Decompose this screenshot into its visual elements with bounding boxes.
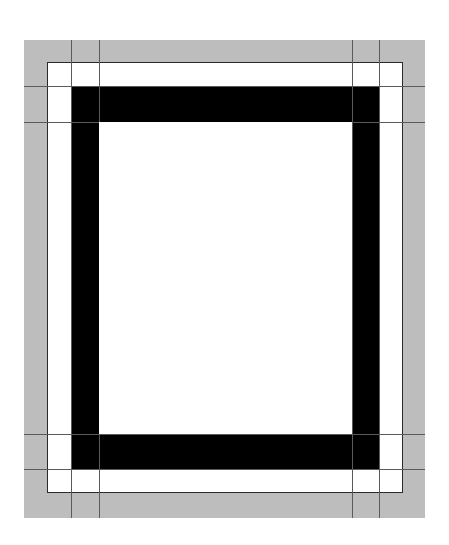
grid-line-horizontal-4: [24, 469, 425, 470]
ring-left-bar: [71, 86, 99, 470]
grid-line-vertical-4: [379, 40, 380, 518]
grid-line-vertical-1: [71, 40, 72, 518]
grid-line-horizontal-1: [24, 86, 425, 87]
grid-line-vertical-3: [352, 40, 353, 518]
ring-top-bar: [71, 86, 379, 122]
ring-right-bar: [351, 86, 379, 470]
grid-line-horizontal-3: [24, 434, 425, 435]
ring-inner-white: [99, 122, 352, 434]
ring-bottom-bar: [71, 434, 379, 470]
